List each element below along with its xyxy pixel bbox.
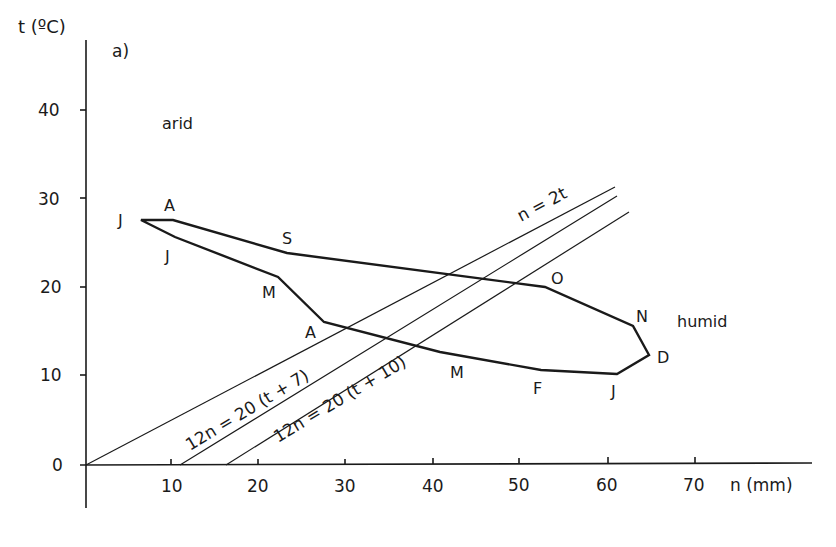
- equation-label-t-plus-7: 12n = 20 (t + 7): [182, 365, 313, 454]
- month-label-august: A: [164, 196, 175, 215]
- y-axis-label: t (ºC): [18, 16, 66, 37]
- x-tick-label-50: 50: [508, 475, 530, 495]
- x-axis: [80, 463, 812, 465]
- y-tick-label-30: 30: [38, 189, 60, 209]
- region-label-humid: humid: [677, 312, 727, 331]
- x-tick-label-30: 30: [334, 476, 356, 496]
- month-label-september: S: [282, 229, 292, 248]
- month-label-december: D: [657, 348, 669, 367]
- region-label-arid: arid: [162, 114, 193, 133]
- y-tick-label-20: 20: [40, 277, 62, 297]
- x-tick-label-10: 10: [161, 476, 183, 496]
- equation-label-n-2t: n = 2t: [513, 183, 570, 226]
- month-label-january: J: [610, 382, 616, 401]
- panel-label: a): [112, 41, 129, 61]
- x-axis-label: n (mm): [730, 475, 793, 495]
- reference-lines: [86, 187, 629, 465]
- x-tick-label-20: 20: [247, 476, 269, 496]
- y-tick-label-0: 0: [52, 455, 63, 475]
- line-n-equals-2t: [86, 187, 615, 465]
- climograph-chart: t (ºC) a) n (mm) 0 10 20 30 40 10 20 30 …: [0, 0, 836, 547]
- month-label-july: J: [117, 211, 123, 230]
- line-12n-20-t-plus-7: [180, 196, 617, 465]
- month-label-april: A: [305, 323, 316, 342]
- x-tick-label-40: 40: [422, 476, 444, 496]
- month-label-november: N: [636, 307, 648, 326]
- month-label-may: M: [262, 283, 276, 302]
- month-label-june: J: [164, 247, 170, 266]
- x-tick-label-60: 60: [596, 475, 618, 495]
- climograph-polygon: [141, 220, 649, 374]
- equation-label-t-plus-10: 12n = 20 (t + 10): [270, 351, 410, 446]
- x-tick-label-70: 70: [683, 475, 705, 495]
- y-tick-label-40: 40: [38, 100, 60, 120]
- y-tick-label-10: 10: [40, 365, 62, 385]
- month-label-october: O: [551, 269, 564, 288]
- month-label-february: F: [533, 379, 542, 398]
- month-label-march: M: [450, 363, 464, 382]
